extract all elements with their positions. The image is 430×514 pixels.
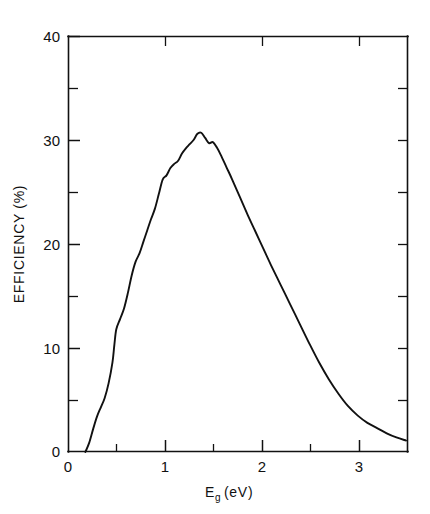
y-tick-label-10: 10	[43, 340, 60, 357]
x-tick-label-3: 3	[355, 458, 363, 475]
x-axis-ticks	[117, 440, 360, 452]
x-tick-labels: 0 1 2 3	[64, 458, 363, 475]
efficiency-vs-bandgap-chart: 40 30 20 10 0 0 1 2 3 EFFICIENCY (%) E g…	[0, 0, 430, 514]
x-tick-label-0: 0	[64, 458, 72, 475]
efficiency-curve	[85, 132, 406, 452]
y-axis-title: EFFICIENCY (%)	[11, 185, 27, 303]
x-axis-ticks-top	[166, 37, 360, 47]
x-axis-title-main: E	[205, 484, 215, 500]
y-axis-ticks	[69, 37, 81, 401]
y-tick-label-0: 0	[52, 443, 60, 460]
y-tick-label-40: 40	[43, 28, 60, 45]
y-tick-labels: 40 30 20 10 0	[43, 28, 60, 460]
y-axis-ticks-right	[398, 89, 408, 401]
figure-container: 40 30 20 10 0 0 1 2 3 EFFICIENCY (%) E g…	[0, 0, 430, 514]
x-axis-title-subscript: g	[215, 492, 221, 503]
plot-frame	[68, 36, 408, 452]
x-axis-title: E g (eV)	[205, 484, 253, 503]
x-axis-title-unit: (eV)	[224, 484, 253, 500]
y-tick-label-30: 30	[43, 132, 60, 149]
y-tick-label-20: 20	[43, 236, 60, 253]
x-tick-label-1: 1	[161, 458, 169, 475]
x-tick-label-2: 2	[258, 458, 266, 475]
